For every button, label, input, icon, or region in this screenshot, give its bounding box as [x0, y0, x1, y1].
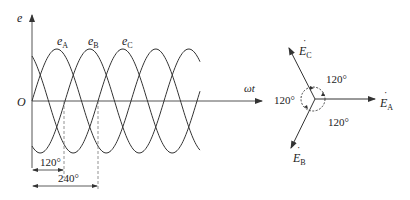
phasor-diagram: EA · EC · EB · 120° 120° 120° [274, 35, 393, 167]
angle-label-top: 120° [326, 73, 347, 85]
label-EB: EB [292, 151, 306, 167]
angle-arrow-1 [321, 92, 325, 96]
dot-EB: · [297, 142, 300, 153]
waveform-plot: e ωt O eA eB eC 120° 240° [17, 11, 262, 190]
label-eA: eA [57, 34, 68, 50]
dim-240-label: 240° [58, 172, 79, 184]
label-eC: eC [122, 34, 133, 50]
dim-120-label: 120° [40, 156, 61, 168]
angle-label-left: 120° [274, 94, 295, 106]
angle-label-bottom: 120° [328, 116, 349, 128]
label-EC: EC [298, 44, 312, 60]
y-axis-label: e [17, 11, 23, 25]
three-phase-diagram: e ωt O eA eB eC 120° 240° EA · EC · EB ·… [0, 0, 410, 200]
x-axis-label: ωt [244, 82, 256, 94]
origin-label: O [17, 95, 26, 109]
dot-EC: · [303, 35, 306, 46]
label-EA: EA [379, 96, 393, 112]
label-eB: eB [88, 34, 99, 50]
dot-EA: · [384, 87, 387, 98]
